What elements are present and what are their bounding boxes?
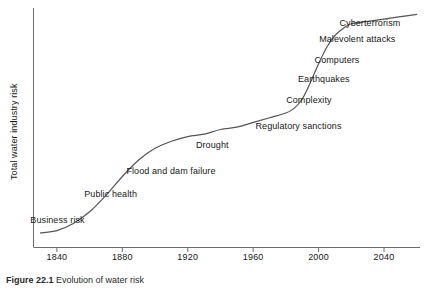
x-axis-tick-label-2040: 2040 xyxy=(364,252,404,262)
annotation-computers: Computers xyxy=(315,55,360,65)
x-axis-tick-label-1920: 1920 xyxy=(168,252,208,262)
annotation-malevolent-attacks: Malevolent attacks xyxy=(319,34,395,44)
annotation-drought: Drought xyxy=(196,140,229,150)
figure: Total water industry risk 18401880192019… xyxy=(0,0,431,288)
x-axis-tick-label-1880: 1880 xyxy=(102,252,142,262)
x-axis-tick-label-1840: 1840 xyxy=(37,252,77,262)
annotation-business-risk: Business risk xyxy=(30,215,84,225)
y-axis-title: Total water industry risk xyxy=(6,52,22,212)
x-axis-tick-label-1960: 1960 xyxy=(233,252,273,262)
x-axis-tick-label-2000: 2000 xyxy=(299,252,339,262)
figure-caption-number: Figure 22.1 xyxy=(6,275,54,285)
annotation-flood-and-dam-failure: Flood and dam failure xyxy=(126,166,215,176)
annotation-public-health: Public health xyxy=(84,189,137,199)
annotation-earthquakes: Earthquakes xyxy=(298,74,350,84)
annotation-cyberterrorism: Cyberterrorism xyxy=(339,18,400,28)
risk-curve-line xyxy=(41,14,417,233)
annotation-complexity: Complexity xyxy=(286,95,332,105)
annotation-regulatory-sanctions: Regulatory sanctions xyxy=(255,121,341,131)
chart-plot-area: Total water industry risk 18401880192019… xyxy=(0,0,431,265)
figure-caption-text: Evolution of water risk xyxy=(54,275,145,285)
figure-caption: Figure 22.1 Evolution of water risk xyxy=(6,275,144,288)
